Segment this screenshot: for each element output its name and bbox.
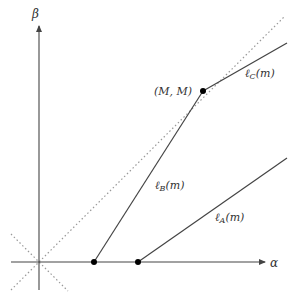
l-b-arg: (m) <box>165 179 184 192</box>
line-l-b-label: ℓB(m) <box>155 180 185 193</box>
line-l-a-label: ℓA(m) <box>215 212 244 225</box>
line-l-c-label: ℓC(m) <box>245 68 275 81</box>
diagonal-dotted-line <box>11 17 284 290</box>
x-axis-label: α <box>270 257 278 269</box>
point-m-m-label: (M, M) <box>154 86 192 97</box>
point-m-m <box>200 88 206 94</box>
y-axis-label: β <box>32 8 39 20</box>
line-l-a <box>138 158 287 262</box>
line-l-b <box>94 91 203 262</box>
point-l-a-intercept <box>135 259 141 265</box>
l-c-arg: (m) <box>256 67 275 80</box>
diagram-canvas <box>0 0 293 298</box>
point-l-b-intercept <box>91 259 97 265</box>
l-a-arg: (m) <box>225 211 244 224</box>
